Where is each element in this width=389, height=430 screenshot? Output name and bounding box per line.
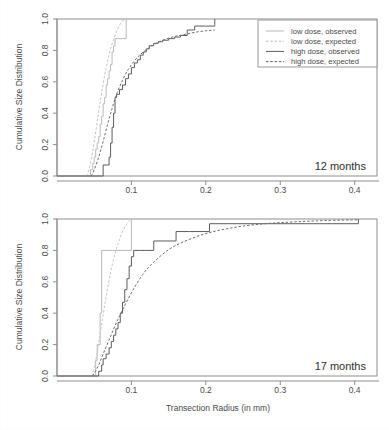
y-tick-label: 0.8	[40, 44, 50, 56]
y-tick-label: 1.0	[40, 213, 50, 225]
panel-tag-12-months: 12 months	[315, 160, 367, 172]
panel-12-months: 0.00.20.40.60.81.0 0.10.20.30.4 Cumulati…	[0, 0, 389, 205]
panel-tag-17-months: 17 months	[315, 360, 367, 372]
y-tick-label: 1.0	[40, 13, 50, 25]
y-tick-label: 0.6	[40, 276, 50, 288]
y-tick-label: 0.8	[40, 244, 50, 256]
panel-bottom-svg: 0.00.20.40.60.81.0 0.10.20.30.4 Cumulati…	[0, 205, 389, 430]
legend-label: high dose, observed	[291, 47, 359, 56]
series-line	[57, 219, 131, 376]
series-line	[57, 219, 358, 376]
y-tick-label: 0.0	[40, 170, 50, 182]
series-line	[92, 219, 131, 376]
series-group-bottom	[57, 219, 358, 376]
figure-container: 0.00.20.40.60.81.0 0.10.20.30.4 Cumulati…	[0, 0, 389, 430]
x-axis-top: 0.10.20.30.4	[57, 181, 379, 195]
y-axis-title-bottom: Cumulative Size Distribution	[14, 244, 24, 351]
x-axis-title: Transection Radius (in mm)	[166, 403, 270, 413]
x-tick-label: 0.3	[274, 385, 286, 395]
legend: low dose, observedlow dose, expectedhigh…	[258, 20, 377, 67]
y-tick-label: 0.2	[40, 338, 50, 350]
x-tick-label: 0.4	[349, 385, 361, 395]
x-tick-label: 0.4	[349, 185, 361, 195]
plot-frame-bottom	[57, 219, 377, 376]
x-tick-label: 0.2	[200, 185, 212, 195]
y-axis-top: 0.00.20.40.60.81.0	[40, 13, 57, 182]
series-line	[57, 19, 215, 176]
series-group-top	[57, 19, 215, 176]
y-tick-label: 0.4	[40, 307, 50, 319]
legend-label: low dose, expected	[291, 37, 356, 46]
y-tick-label: 0.0	[40, 370, 50, 382]
y-axis-bottom: 0.00.20.40.60.81.0	[40, 213, 57, 382]
series-line	[93, 220, 359, 376]
panel-17-months: 0.00.20.40.60.81.0 0.10.20.30.4 Cumulati…	[0, 205, 389, 430]
x-tick-label: 0.1	[126, 185, 138, 195]
y-axis-title-top: Cumulative Size Distribution	[14, 44, 24, 151]
legend-label: high dose, expected	[291, 57, 359, 66]
y-tick-label: 0.2	[40, 138, 50, 150]
x-axis-bottom: 0.10.20.30.4	[57, 381, 379, 395]
x-tick-label: 0.1	[126, 385, 138, 395]
y-tick-label: 0.4	[40, 107, 50, 119]
panel-top-svg: 0.00.20.40.60.81.0 0.10.20.30.4 Cumulati…	[0, 0, 389, 205]
y-tick-label: 0.6	[40, 76, 50, 88]
x-tick-label: 0.3	[274, 185, 286, 195]
legend-label: low dose, observed	[291, 27, 356, 36]
x-tick-label: 0.2	[200, 385, 212, 395]
